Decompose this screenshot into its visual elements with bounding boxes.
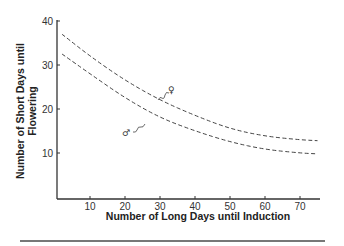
y-tick-label: 20 — [42, 104, 54, 115]
series-line-male — [62, 54, 318, 154]
female-symbol-label: ♀ — [168, 85, 175, 95]
y-tick-label: 30 — [42, 60, 54, 71]
x-axis-label: Number of Long Days until Induction — [0, 210, 344, 222]
male-symbol-label: ♂ — [122, 128, 130, 138]
y-tick-label: 40 — [42, 16, 54, 27]
divider — [20, 240, 325, 242]
male-leader-line — [133, 124, 145, 132]
y-axis-label: Number of Short Days until Flowering — [14, 21, 38, 201]
y-tick-label: 10 — [42, 148, 54, 159]
series-line-female — [62, 34, 318, 140]
chart: 1020304010203040506070♀♂ Number of Short… — [0, 0, 344, 246]
